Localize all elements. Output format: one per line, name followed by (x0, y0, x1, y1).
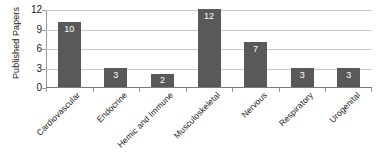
bar-value-label: 10 (58, 24, 81, 34)
bar[interactable]: 7 (244, 42, 267, 88)
plot-area: 103212733 (46, 10, 372, 88)
bar[interactable]: 10 (58, 22, 81, 87)
y-tick-mark (42, 69, 46, 70)
y-tick-label: 9 (20, 25, 42, 35)
x-axis-label: Respiratory (277, 90, 315, 128)
bar[interactable]: 2 (151, 74, 174, 87)
y-tick-mark (42, 49, 46, 50)
y-tick-label: 6 (20, 44, 42, 54)
y-tick-label: 3 (20, 64, 42, 74)
bar[interactable]: 3 (104, 68, 127, 88)
x-axis-label: Nervous (239, 90, 269, 120)
y-tick-mark (42, 30, 46, 31)
y-tick-mark (42, 10, 46, 11)
x-axis-label: Urogenital (327, 90, 362, 125)
x-axis-label: Endocrine (94, 90, 128, 124)
bar-value-label: 3 (104, 70, 127, 80)
y-tick-label: 12 (20, 5, 42, 15)
bar-value-label: 3 (291, 70, 314, 80)
bar-chart: Published Papers 036912 103212733 Cardio… (0, 0, 388, 168)
bar[interactable]: 3 (337, 68, 360, 88)
y-tick-label: 0 (20, 83, 42, 93)
bar-value-label: 12 (198, 11, 221, 21)
bar-value-label: 7 (244, 44, 267, 54)
x-axis-label: Musculoskeletal (172, 90, 222, 140)
x-axis-label: Cardiovascular (35, 90, 83, 138)
bar-value-label: 3 (337, 70, 360, 80)
bar[interactable]: 3 (291, 68, 314, 88)
y-axis-tick-labels: 036912 (20, 6, 42, 88)
bar[interactable]: 12 (198, 9, 221, 87)
bar-value-label: 2 (151, 75, 174, 85)
x-axis-category-labels: CardiovascularEndocrineHemic and ImmuneM… (46, 88, 372, 168)
